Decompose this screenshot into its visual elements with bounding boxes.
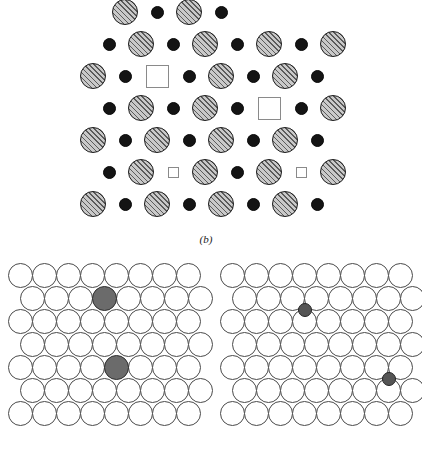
host-lattice-atom (340, 309, 365, 334)
host-lattice-atom (68, 332, 93, 357)
cation-site (112, 0, 138, 25)
cation-site (208, 127, 234, 153)
host-lattice-atom (232, 378, 257, 403)
host-lattice-atom (316, 309, 341, 334)
interstitial-impurity-atom (298, 303, 312, 317)
cation-site (320, 95, 346, 121)
host-lattice-atom (32, 401, 57, 426)
host-lattice-atom (8, 355, 33, 380)
anion-site (247, 198, 260, 211)
host-lattice-atom (104, 401, 129, 426)
host-lattice-atom (316, 401, 341, 426)
host-lattice-atom (352, 378, 377, 403)
anion-site (311, 198, 324, 211)
host-lattice-atom (292, 355, 317, 380)
host-lattice-atom (256, 286, 281, 311)
host-lattice-atom (8, 309, 33, 334)
host-lattice-atom (292, 263, 317, 288)
host-lattice-atom (280, 378, 305, 403)
host-lattice-atom (116, 332, 141, 357)
panel-b-ionic-lattice: (b) (0, 0, 422, 250)
host-lattice-atom (152, 263, 177, 288)
panel-d-interstitial: (d) (212, 255, 422, 465)
host-lattice-atom (80, 263, 105, 288)
host-lattice-atom (80, 355, 105, 380)
host-lattice-atom (364, 263, 389, 288)
cation-site (256, 31, 282, 57)
host-lattice-atom (128, 309, 153, 334)
panel-c-substitutional: (c) (0, 255, 210, 465)
anion-site (119, 198, 132, 211)
host-lattice-atom (104, 263, 129, 288)
host-lattice-atom (128, 401, 153, 426)
host-lattice-atom (44, 286, 69, 311)
substitutional-impurity-atom (104, 355, 129, 380)
cation-site (80, 63, 106, 89)
anion-site (103, 166, 116, 179)
anion-site (295, 102, 308, 115)
anion-site (183, 70, 196, 83)
host-lattice-atom (56, 401, 81, 426)
cation-site (80, 191, 106, 217)
host-lattice-atom (364, 401, 389, 426)
host-lattice-atom (164, 286, 189, 311)
host-lattice-atom (128, 355, 153, 380)
cation-site (272, 127, 298, 153)
anion-site (231, 38, 244, 51)
interstitial-impurity-atom (382, 372, 396, 386)
cation-site (208, 63, 234, 89)
host-lattice-atom (340, 263, 365, 288)
cation-site (80, 127, 106, 153)
host-lattice-atom (340, 355, 365, 380)
host-lattice-atom (80, 401, 105, 426)
cation-site (192, 31, 218, 57)
host-lattice-atom (220, 355, 245, 380)
host-lattice-atom (56, 263, 81, 288)
substitutional-impurity-atom (92, 286, 117, 311)
host-lattice-atom (44, 378, 69, 403)
cation-site (144, 191, 170, 217)
anion-site (247, 70, 260, 83)
host-lattice-atom (116, 378, 141, 403)
host-lattice-atom (152, 309, 177, 334)
host-lattice-atom (8, 263, 33, 288)
host-lattice-atom (376, 286, 401, 311)
host-lattice-atom (116, 286, 141, 311)
host-lattice-atom (232, 286, 257, 311)
host-lattice-atom (268, 309, 293, 334)
cation-site (128, 95, 154, 121)
anion-site (167, 102, 180, 115)
host-lattice-atom (20, 378, 45, 403)
figure-root: (b) (c) (d) (0, 0, 422, 465)
host-lattice-atom (140, 332, 165, 357)
host-lattice-atom (56, 355, 81, 380)
cation-site (320, 159, 346, 185)
cation-site (256, 159, 282, 185)
anion-site (119, 134, 132, 147)
panel-c-lattice-grid (0, 255, 210, 435)
host-lattice-atom (220, 263, 245, 288)
host-lattice-atom (244, 355, 269, 380)
host-lattice-atom (68, 378, 93, 403)
host-lattice-atom (400, 332, 422, 357)
cation-site (128, 159, 154, 185)
host-lattice-atom (316, 263, 341, 288)
host-lattice-atom (152, 401, 177, 426)
cation-vacancy-site (258, 97, 281, 120)
anion-site (103, 102, 116, 115)
host-lattice-atom (32, 309, 57, 334)
host-lattice-atom (140, 286, 165, 311)
cation-site (176, 0, 202, 25)
anion-vacancy-site (296, 167, 307, 178)
host-lattice-atom (244, 263, 269, 288)
host-lattice-atom (80, 309, 105, 334)
panel-b-caption: (b) (176, 233, 236, 245)
host-lattice-atom (304, 332, 329, 357)
host-lattice-atom (268, 401, 293, 426)
host-lattice-atom (292, 401, 317, 426)
host-lattice-atom (44, 332, 69, 357)
anion-site (231, 102, 244, 115)
anion-site (311, 134, 324, 147)
anion-site (215, 6, 228, 19)
host-lattice-atom (104, 309, 129, 334)
